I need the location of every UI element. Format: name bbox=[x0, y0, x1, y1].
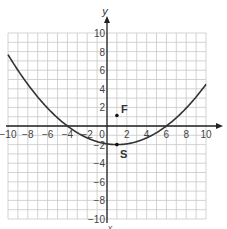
y-tick-label: −10 bbox=[88, 214, 105, 225]
y-tick-label: 2 bbox=[99, 102, 105, 113]
x-tick-label: 10 bbox=[200, 129, 212, 140]
x-tick-label: 2 bbox=[124, 129, 130, 140]
x-tick-label: −8 bbox=[22, 129, 34, 140]
x-tick-label: −10 bbox=[0, 129, 17, 140]
x-axis-label: x bbox=[107, 223, 113, 229]
y-tick-label: 6 bbox=[99, 65, 105, 76]
point-label-f: F bbox=[121, 103, 128, 115]
point-label-s: S bbox=[120, 148, 127, 160]
y-tick-label: 4 bbox=[99, 84, 105, 95]
x-tick-label: 6 bbox=[164, 129, 170, 140]
y-axis-label: y bbox=[101, 5, 109, 17]
x-tick-label: 0 bbox=[99, 129, 105, 140]
coordinate-plane: yx−10−8−6−4−20246810−10−8−6−4−2246810FS bbox=[0, 0, 227, 229]
point-f bbox=[115, 114, 119, 118]
y-tick-label: −4 bbox=[94, 158, 106, 169]
x-tick-label: −6 bbox=[42, 129, 54, 140]
x-axis-arrow-icon bbox=[216, 123, 223, 129]
y-tick-label: −6 bbox=[94, 177, 106, 188]
x-tick-label: 8 bbox=[183, 129, 189, 140]
point-s bbox=[115, 143, 119, 147]
y-axis-arrow-icon bbox=[104, 16, 110, 23]
x-tick-label: −4 bbox=[62, 129, 74, 140]
y-tick-label: 10 bbox=[94, 28, 106, 39]
y-tick-label: −8 bbox=[94, 195, 106, 206]
y-tick-label: 8 bbox=[99, 47, 105, 58]
